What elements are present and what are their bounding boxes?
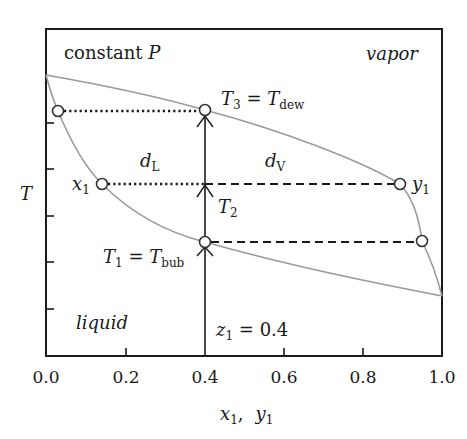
dV-label: dV <box>265 150 286 174</box>
x-tick-label: 0.0 <box>32 367 59 387</box>
y-axis-label: T <box>20 183 34 204</box>
T2-label: T2 <box>218 196 238 220</box>
x-tick-labels: 0.0 0.2 0.4 0.6 0.8 1.0 <box>32 367 455 387</box>
x1-label: x1 <box>72 173 90 197</box>
state-markers <box>53 105 428 248</box>
x-tick-label: 0.4 <box>191 367 218 387</box>
x-axis-label: x1,y1 <box>220 403 273 427</box>
y-axis-ticks <box>46 123 54 309</box>
x-axis-ticks <box>126 348 363 356</box>
y1-label: y1 <box>411 173 430 197</box>
x-tick-label: 0.8 <box>349 367 376 387</box>
marker-liquid-T3 <box>53 106 64 117</box>
marker-vapor-T1 <box>417 236 428 247</box>
x-tick-label: 0.6 <box>270 367 297 387</box>
T1-Tbub-label: T1 = Tbub <box>103 246 185 270</box>
marker-x1 <box>97 179 108 190</box>
plot-frame <box>46 29 442 356</box>
vapor-region-label: vapor <box>366 43 419 64</box>
x-tick-label: 1.0 <box>428 367 455 387</box>
z1-label: z1 = 0.4 <box>215 319 288 343</box>
marker-dew-point <box>200 105 211 116</box>
T3-Tdew-label: T3 = Tdew <box>221 88 305 112</box>
liquid-region-label: liquid <box>76 312 128 333</box>
x-tick-label: 0.2 <box>112 367 139 387</box>
marker-bubble-point <box>200 237 211 248</box>
phase-diagram: constant P vapor liquid T T3 = Tdew dL d… <box>0 0 467 439</box>
dL-label: dL <box>140 150 160 174</box>
constant-pressure-label: constant P <box>64 42 161 63</box>
marker-y1 <box>395 179 406 190</box>
